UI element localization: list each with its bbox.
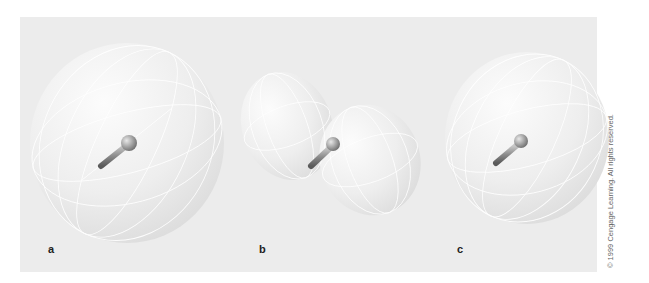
panel-label-a: a: [48, 243, 54, 255]
panel-label-b: b: [259, 243, 266, 255]
pattern-a-sphere: [8, 16, 247, 269]
pattern-b-dipole: [226, 59, 436, 230]
copyright-notice: © 1999 Cengage Learning. All rights rese…: [606, 114, 615, 268]
pattern-c-cardioid: [424, 29, 631, 247]
radiation-pattern-illustration: [0, 0, 649, 283]
panel-label-c: c: [457, 243, 463, 255]
